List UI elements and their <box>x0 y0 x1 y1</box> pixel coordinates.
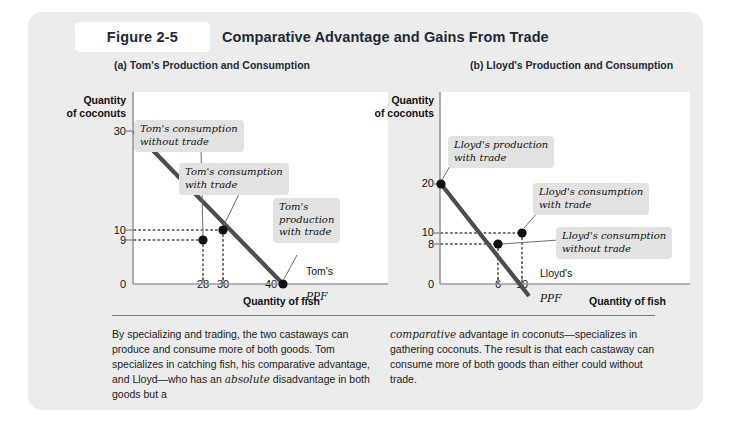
caption-right-italic: comparative <box>390 328 456 340</box>
point-consumption-with-trade-lloyd <box>517 228 526 237</box>
caption-left-italic: absolute <box>225 373 270 385</box>
figure-panel: Figure 2-5 Comparative Advantage and Gai… <box>28 12 703 410</box>
leader-consumption-without-trade-lloyd <box>501 240 559 244</box>
panel-b-subtitle: (b) Lloyd's Production and Consumption <box>470 59 673 71</box>
callout-consumption-without-trade-lloyd: Lloyd's consumption without trade <box>556 227 672 259</box>
point-production-with-trade-lloyd <box>436 179 445 188</box>
leader-consumption-with-trade-tom <box>224 192 240 225</box>
point-production-with-trade-tom <box>278 279 287 288</box>
callout-production-with-trade-tom: Tom's production with trade <box>273 198 340 243</box>
chart-lloyd: Quantity of coconuts Quantity of fish 20… <box>388 72 698 317</box>
callout-consumption-with-trade-lloyd: Lloyd's consumption with trade <box>533 183 649 215</box>
callout-consumption-with-trade-tom: Tom's consumption with trade <box>179 163 289 195</box>
callout-production-with-trade-lloyd: Lloyd's production with trade <box>448 136 554 168</box>
ppf-label-lloyd: Lloyd's PPF <box>540 254 572 304</box>
chart-tom: Quantity of coconuts Quantity of fish 30… <box>48 72 393 317</box>
figure-number-badge: Figure 2-5 <box>75 22 210 52</box>
ppf-label-tom: Tom's PPF <box>306 252 333 302</box>
callout-consumption-without-trade-tom: Tom's consumption without trade <box>134 120 244 152</box>
ppf-line-tom <box>134 131 283 284</box>
figure-title: Comparative Advantage and Gains From Tra… <box>222 29 549 45</box>
caption-right-column: comparative advantage in coconuts—specia… <box>390 327 658 387</box>
figure-number-label: Figure 2-5 <box>75 22 210 52</box>
leader-production-with-trade-lloyd <box>442 166 450 180</box>
ppf-line-lloyd <box>441 184 529 296</box>
point-consumption-with-trade-tom <box>218 225 227 234</box>
caption-left-column: By specializing and trading, the two cas… <box>112 327 380 402</box>
leader-production-with-trade-tom <box>284 255 297 279</box>
caption-divider <box>112 315 655 316</box>
point-consumption-without-trade-lloyd <box>493 239 502 248</box>
panel-a-subtitle: (a) Tom's Production and Consumption <box>114 59 310 71</box>
point-consumption-without-trade-tom <box>198 235 207 244</box>
